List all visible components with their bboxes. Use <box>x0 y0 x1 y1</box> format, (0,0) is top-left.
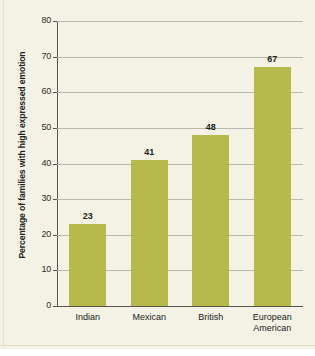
bar-value-label: 23 <box>69 211 106 221</box>
y-tick-mark-0 <box>53 306 57 307</box>
y-tick-mark-70 <box>53 57 57 58</box>
bar-chart-figure: Percentage of families with high express… <box>0 0 315 356</box>
bar-value-label: 48 <box>192 122 229 132</box>
x-axis-category-label: Indian <box>53 312 123 323</box>
y-tick-mark-50 <box>53 128 57 129</box>
bar-value-label: 41 <box>131 147 168 157</box>
y-tick-mark-30 <box>53 199 57 200</box>
y-tick-mark-80 <box>53 21 57 22</box>
x-axis-category-label: British <box>176 312 246 323</box>
x-axis-category-label: European American <box>238 312 308 334</box>
y-tick-mark-40 <box>53 164 57 165</box>
bar-value-label: 67 <box>254 54 291 64</box>
y-tick-mark-20 <box>53 235 57 236</box>
labels-layer: 23Indian41Mexican48British67European Ame… <box>0 0 315 356</box>
x-axis-category-label: Mexican <box>115 312 185 323</box>
y-tick-mark-60 <box>53 92 57 93</box>
y-tick-mark-10 <box>53 270 57 271</box>
